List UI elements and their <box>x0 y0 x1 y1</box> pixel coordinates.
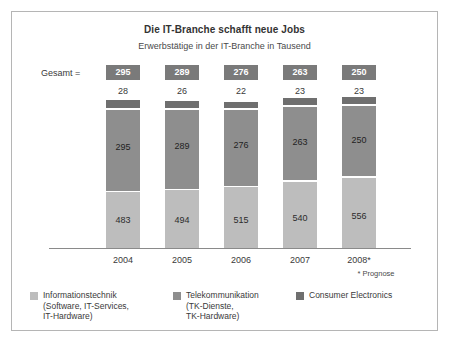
legend-swatch-icon-telekommunikation <box>173 292 181 300</box>
mid-value-2005: 289 <box>165 141 199 151</box>
legend-swatch-icon-informationstechnik <box>30 292 38 300</box>
bottom-value-2007: 540 <box>283 213 317 223</box>
legend-swatch-icon-consumer-electronics <box>296 292 304 300</box>
bottom-value-2006: 515 <box>224 215 258 225</box>
legend-label-main-telekommunikation: Telekommunikation <box>186 290 259 300</box>
x-label-2004: 2004 <box>106 255 140 265</box>
segment-consumer-electronics-2004 <box>106 100 140 108</box>
top-value-2008: 23 <box>342 86 376 96</box>
x-axis-line <box>49 248 411 249</box>
x-label-2006: 2006 <box>224 255 258 265</box>
plot-area: 28 295 483 2004 26 289 494 2005 22 276 5… <box>12 12 437 330</box>
legend-label-sub1-telekommunikation: (TK-Dienste, <box>186 301 259 312</box>
legend-label-consumer-electronics: Consumer Electronics <box>309 290 392 301</box>
top-value-2004: 28 <box>106 86 140 96</box>
legend-label-main-informationstechnik: Informationstechnik <box>43 290 117 300</box>
segment-consumer-electronics-2006 <box>224 102 258 108</box>
bottom-value-2008: 556 <box>342 211 376 221</box>
legend-label-sub2-informationstechnik: IT-Hardware) <box>43 311 129 322</box>
top-value-2005: 26 <box>165 86 199 96</box>
bottom-value-2004: 483 <box>106 215 140 225</box>
top-value-2007: 23 <box>283 86 317 96</box>
bottom-value-2005: 494 <box>165 215 199 225</box>
mid-value-2008: 250 <box>342 135 376 145</box>
mid-value-2004: 295 <box>106 142 140 152</box>
x-label-2007: 2007 <box>283 255 317 265</box>
mid-value-2006: 276 <box>224 140 258 150</box>
legend-label-informationstechnik: Informationstechnik (Software, IT-Servic… <box>43 290 129 322</box>
x-label-2008: 2008* <box>342 255 376 265</box>
footnote-prognose: * Prognose <box>341 269 411 278</box>
legend-label-telekommunikation: Telekommunikation (TK-Dienste, TK-Hardwa… <box>186 290 259 322</box>
segment-consumer-electronics-2008 <box>342 97 376 104</box>
segment-consumer-electronics-2007 <box>283 98 317 105</box>
legend-label-sub1-informationstechnik: (Software, IT-Services, <box>43 301 129 312</box>
legend-label-sub2-telekommunikation: TK-Hardware) <box>186 311 259 322</box>
legend-label-main-consumer-electronics: Consumer Electronics <box>309 290 392 300</box>
mid-value-2007: 263 <box>283 137 317 147</box>
chart-frame: Die IT-Branche schafft neue Jobs Erwerbs… <box>11 11 438 331</box>
x-label-2005: 2005 <box>165 255 199 265</box>
segment-consumer-electronics-2005 <box>165 101 199 108</box>
top-value-2006: 22 <box>224 86 258 96</box>
